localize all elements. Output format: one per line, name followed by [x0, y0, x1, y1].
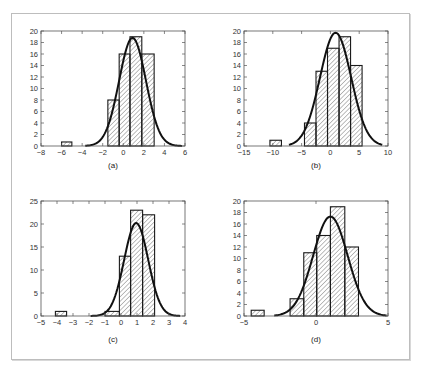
histogram-bar — [270, 140, 282, 146]
x-tick-label: −2 — [85, 318, 94, 327]
histogram-panel-d: −50502468101214161820(d) — [233, 197, 390, 344]
x-tick-label: 2 — [151, 318, 155, 327]
x-tick-label: −2 — [98, 148, 107, 157]
x-tick-label: 5 — [386, 318, 390, 327]
y-tick-label: 6 — [237, 277, 241, 286]
y-tick-label: 20 — [233, 197, 241, 206]
x-tick-label: −8 — [37, 148, 46, 157]
y-axis: 0510152025 — [30, 197, 185, 321]
x-axis: −5−4−3−2−101234 — [37, 201, 187, 327]
y-tick-label: 10 — [233, 254, 241, 263]
y-tick-label: 5 — [34, 289, 38, 298]
x-tick-label: −3 — [69, 318, 78, 327]
x-tick-label: −5 — [297, 148, 306, 157]
y-tick-label: 18 — [30, 38, 38, 47]
y-tick-label: 16 — [233, 220, 241, 229]
y-tick-label: 12 — [30, 73, 38, 82]
histogram-bar — [119, 256, 130, 316]
x-tick-label: −1 — [101, 318, 110, 327]
x-tick-label: 4 — [162, 148, 166, 157]
y-tick-label: 20 — [30, 27, 38, 36]
histogram-bar — [351, 66, 363, 147]
y-tick-label: 8 — [34, 96, 38, 105]
y-tick-label: 2 — [34, 130, 38, 139]
y-tick-label: 10 — [233, 84, 241, 93]
x-tick-label: 1 — [135, 318, 139, 327]
panel-caption: (b) — [311, 161, 321, 170]
y-tick-label: 6 — [34, 107, 38, 116]
x-tick-label: 2 — [142, 148, 146, 157]
histogram-figure: −8−6−4−2024602468101214161820(a) −15−10−… — [0, 0, 421, 373]
x-tick-label: −10 — [266, 148, 279, 157]
x-tick-label: 6 — [183, 148, 187, 157]
y-tick-label: 4 — [34, 119, 38, 128]
panel-caption: (d) — [311, 335, 321, 344]
y-tick-label: 20 — [233, 27, 241, 36]
y-tick-label: 16 — [233, 50, 241, 59]
histogram-bar — [62, 142, 72, 146]
y-tick-label: 0 — [34, 142, 38, 151]
x-tick-label: −4 — [53, 318, 62, 327]
histogram-bar — [328, 48, 340, 146]
x-tick-label: −5 — [240, 318, 249, 327]
plot-area-border — [41, 201, 185, 316]
x-tick-label: 0 — [328, 148, 332, 157]
histogram-bar — [316, 71, 328, 146]
x-tick-label: 0 — [119, 318, 123, 327]
x-tick-label: −6 — [57, 148, 66, 157]
histogram-bar — [251, 310, 264, 316]
y-tick-label: 2 — [237, 300, 241, 309]
y-tick-label: 0 — [237, 312, 241, 321]
histogram-bar — [317, 236, 331, 317]
x-tick-label: −4 — [78, 148, 87, 157]
panel-caption: (a) — [108, 161, 118, 170]
histogram-panel-c: −5−4−3−2−1012340510152025(c) — [30, 197, 187, 344]
y-tick-label: 12 — [233, 243, 241, 252]
y-tick-label: 12 — [233, 73, 241, 82]
x-tick-label: 3 — [167, 318, 171, 327]
y-tick-label: 18 — [233, 38, 241, 47]
y-tick-label: 4 — [237, 119, 241, 128]
histogram-panel-b: −15−10−5051002468101214161820(b) — [233, 27, 393, 170]
y-tick-label: 8 — [237, 266, 241, 275]
y-tick-label: 10 — [30, 84, 38, 93]
y-tick-label: 20 — [30, 220, 38, 229]
y-tick-label: 2 — [237, 130, 241, 139]
x-tick-label: 4 — [183, 318, 187, 327]
histogram-panel-a: −8−6−4−2024602468101214161820(a) — [30, 27, 187, 170]
y-tick-label: 18 — [233, 208, 241, 217]
y-tick-label: 25 — [30, 197, 38, 206]
y-tick-label: 0 — [237, 142, 241, 151]
y-tick-label: 15 — [30, 243, 38, 252]
x-tick-label: 0 — [121, 148, 125, 157]
x-tick-label: 0 — [314, 318, 318, 327]
y-tick-label: 14 — [233, 61, 241, 70]
x-tick-label: 10 — [384, 148, 392, 157]
y-tick-label: 10 — [30, 266, 38, 275]
y-tick-label: 8 — [237, 96, 241, 105]
y-tick-label: 16 — [30, 50, 38, 59]
y-tick-label: 14 — [30, 61, 38, 70]
panel-caption: (c) — [108, 335, 118, 344]
y-tick-label: 14 — [233, 231, 241, 240]
x-tick-label: −5 — [37, 318, 46, 327]
x-tick-label: 5 — [357, 148, 361, 157]
y-tick-label: 0 — [34, 312, 38, 321]
histogram-bars — [251, 207, 358, 316]
y-tick-label: 6 — [237, 107, 241, 116]
y-tick-label: 4 — [237, 289, 241, 298]
